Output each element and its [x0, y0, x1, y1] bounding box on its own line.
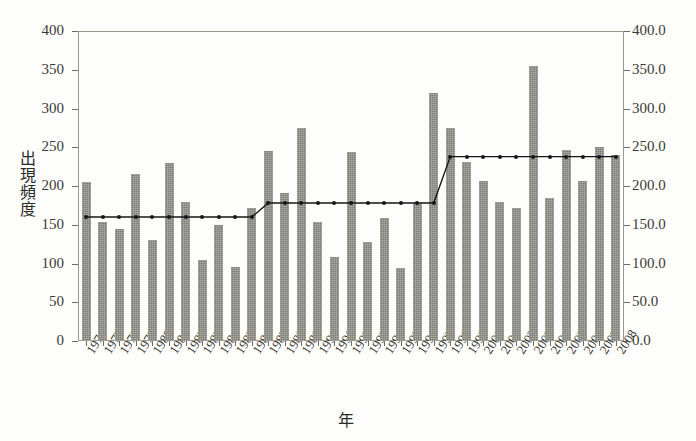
step-line-marker — [481, 155, 485, 159]
step-line-marker — [614, 155, 618, 159]
step-line-marker — [167, 215, 171, 219]
chart-figure: 出現頻度 年 050100150200250300350400 0.050.01… — [0, 0, 696, 441]
step-line-marker — [184, 215, 188, 219]
step-line-marker — [498, 155, 502, 159]
step-line-marker — [283, 201, 287, 205]
step-line-marker — [366, 201, 370, 205]
step-line-marker — [101, 215, 105, 219]
step-line-marker — [448, 155, 452, 159]
step-line-marker — [217, 215, 221, 219]
step-line-marker — [250, 215, 254, 219]
step-line-marker — [531, 155, 535, 159]
step-line-marker — [432, 201, 436, 205]
step-line-marker — [548, 155, 552, 159]
step-line-marker — [465, 155, 469, 159]
step-line-marker — [316, 201, 320, 205]
step-line-marker — [581, 155, 585, 159]
figure-caption-strip — [60, 433, 640, 441]
step-line-marker — [134, 215, 138, 219]
step-line-path — [0, 0, 696, 441]
step-line-marker — [399, 201, 403, 205]
step-line-marker — [597, 155, 601, 159]
step-line-marker — [564, 155, 568, 159]
